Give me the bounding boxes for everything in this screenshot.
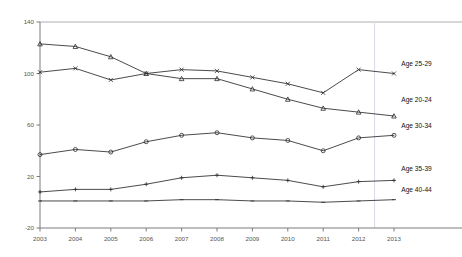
x-axis-tick-label: 2006 xyxy=(139,235,153,242)
x-axis-tick-label: 2004 xyxy=(69,235,83,242)
y-axis-tick-label: 60 xyxy=(27,121,34,128)
series-marker-age-35-39 xyxy=(215,173,219,177)
x-axis-tick-label: 2013 xyxy=(387,235,401,242)
series-line-age-35-39 xyxy=(40,175,394,192)
x-axis-tick-label: 2003 xyxy=(33,235,47,242)
series-marker-age-35-39 xyxy=(357,180,361,184)
series-label-age-40-44: Age 40-44 xyxy=(401,186,432,194)
series-label-age-30-34: Age 30-34 xyxy=(401,122,432,130)
series-marker-age-35-39 xyxy=(73,187,77,191)
series-line-age-20-24 xyxy=(40,44,394,116)
x-axis-tick-label: 2007 xyxy=(175,235,189,242)
y-axis-tick-label: -20 xyxy=(25,224,35,231)
series-marker-age-35-39 xyxy=(180,176,184,180)
series-marker-age-35-39 xyxy=(392,178,396,182)
x-axis-tick-label: 2009 xyxy=(246,235,260,242)
series-marker-age-35-39 xyxy=(38,190,42,194)
series-label-age-35-39: Age 35-39 xyxy=(401,165,432,173)
series-marker-age-35-39 xyxy=(250,176,254,180)
x-axis-tick-label: 2010 xyxy=(281,235,295,242)
x-axis-tick-label: 2005 xyxy=(104,235,118,242)
x-axis-tick-label: 2011 xyxy=(317,235,331,242)
y-axis-tick-label: 140 xyxy=(24,18,35,25)
series-marker-age-35-39 xyxy=(144,182,148,186)
y-axis-tick-label: 100 xyxy=(24,70,35,77)
series-marker-age-35-39 xyxy=(286,178,290,182)
series-label-age-20-24: Age 20-24 xyxy=(401,96,432,104)
x-axis-tick-label: 2012 xyxy=(352,235,366,242)
y-axis-tick-label: 20 xyxy=(27,173,34,180)
series-label-age-25-29: Age 25-29 xyxy=(401,60,432,68)
series-marker-age-35-39 xyxy=(321,185,325,189)
line-chart: -202060100140200320042005200620072008200… xyxy=(0,0,462,257)
series-line-age-30-34 xyxy=(40,133,394,155)
series-marker-age-35-39 xyxy=(109,187,113,191)
chart-canvas: -202060100140200320042005200620072008200… xyxy=(0,0,462,257)
x-axis-tick-label: 2008 xyxy=(210,235,224,242)
